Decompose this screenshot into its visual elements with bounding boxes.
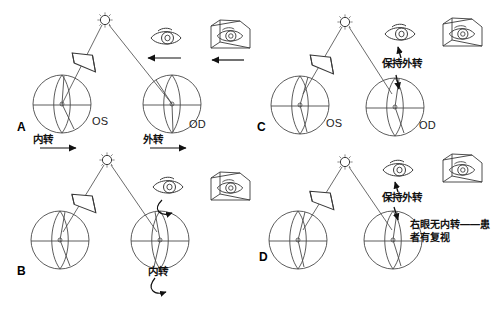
eye-label-od-c: OD bbox=[419, 120, 436, 132]
panel-letter-a: A bbox=[17, 121, 26, 134]
fixation-light-icon bbox=[97, 12, 112, 27]
motion-label-abduction-a: 外转 bbox=[143, 134, 163, 145]
note-label-c: 保持外转 bbox=[382, 58, 422, 69]
fixation-light-icon bbox=[337, 154, 352, 169]
panel-letter-b: B bbox=[17, 265, 26, 278]
eye-label-od-a: OD bbox=[189, 119, 206, 131]
ophthalmology-four-panel-figure bbox=[0, 0, 495, 317]
panel-letter-d: D bbox=[259, 251, 268, 264]
eye-label-os-c: OS bbox=[326, 118, 343, 130]
fixation-light-icon bbox=[337, 14, 352, 29]
note-label-d: 保持外转 bbox=[382, 192, 422, 203]
motion-label-adduction-a: 内转 bbox=[33, 134, 53, 145]
fixation-light-icon bbox=[99, 152, 114, 167]
motion-label-adduction-b: 内转 bbox=[148, 266, 168, 277]
panel-letter-c: C bbox=[257, 121, 266, 134]
diagnosis-label-d: 右眼无内转——患者有复视 bbox=[410, 219, 490, 244]
eye-label-os-a: OS bbox=[92, 116, 109, 128]
